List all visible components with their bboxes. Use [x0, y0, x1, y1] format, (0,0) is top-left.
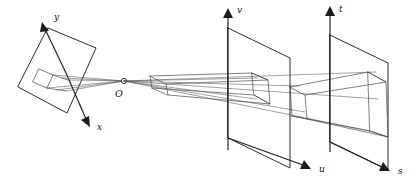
- axis-u-line: [228, 138, 303, 165]
- plane-ts: [330, 35, 388, 170]
- axis-s-group: s: [330, 142, 403, 176]
- ray-right-mid-c: [124, 81, 305, 112]
- axis-u-group: u: [228, 138, 325, 174]
- axis-s-label: s: [398, 166, 403, 176]
- image-plane-group: [18, 28, 96, 113]
- image-plane-inner-square: [33, 69, 53, 88]
- ray-bundle-left: [47, 75, 124, 91]
- frustum-far-top-edge: [290, 72, 386, 95]
- ray-left-2: [47, 81, 124, 88]
- axis-x-label: x: [97, 122, 102, 132]
- axis-v-arrowhead: [223, 8, 233, 18]
- figure-canvas: O v: [0, 0, 415, 186]
- axis-t-arrowhead: [325, 6, 335, 16]
- frustum-near-right-face: [252, 73, 270, 104]
- axis-s-line: [330, 142, 382, 167]
- projection-diagram-figure: O v: [0, 0, 415, 186]
- ray-left-4: [57, 81, 124, 90]
- axis-y-label: y: [53, 12, 60, 22]
- axis-v-label: v: [237, 5, 242, 15]
- ray-right-mid-a: [124, 81, 378, 99]
- axis-t-label: t: [339, 4, 343, 14]
- frustum-far-left-vertical-b: [305, 95, 307, 119]
- origin-label: O: [115, 88, 123, 99]
- axis-u-label: u: [319, 164, 325, 174]
- ray-right-bottom-near: [124, 81, 256, 99]
- axis-y-line: [45, 29, 66, 73]
- axis-x-group: [66, 73, 90, 127]
- ray-exit-edge-bottom: [47, 88, 66, 91]
- axis-y-arrowhead: [40, 22, 49, 32]
- frustum-far-right-face: [368, 72, 388, 137]
- plane-ts-group: [330, 35, 388, 170]
- axis-t-group: t: [325, 4, 343, 152]
- frustum-far-group: [290, 72, 388, 137]
- frustum-far-bottom-edge: [292, 116, 388, 137]
- image-plane-xy: [18, 28, 96, 113]
